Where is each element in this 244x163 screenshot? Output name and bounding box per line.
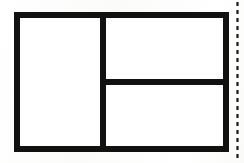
left-panel-face [20,18,100,146]
right-top-panel-face [106,18,223,79]
partitioned-rectangle-figure [0,0,244,163]
right-bottom-panel-face [106,85,223,146]
scanned-page [0,0,244,163]
diagram-canvas [0,0,244,163]
